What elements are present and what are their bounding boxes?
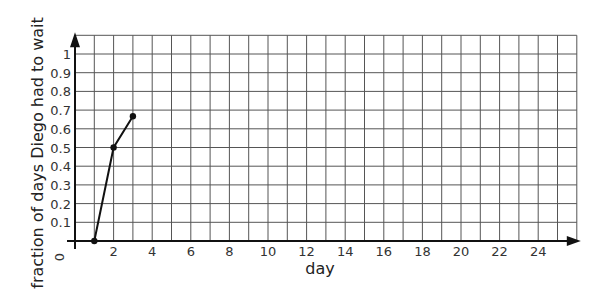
x-tick-label: 22 xyxy=(491,244,508,259)
x-tick-label: 12 xyxy=(298,244,315,259)
data-point xyxy=(91,238,97,244)
line-chart: 24681012141618202224 0.10.20.30.40.50.60… xyxy=(0,0,595,296)
y-tick-labels: 0.10.20.30.40.50.60.70.80.91 xyxy=(50,47,71,230)
y-tick-label: 0.4 xyxy=(50,159,71,174)
y-axis-label: fraction of days Diego had to wait xyxy=(28,17,47,289)
x-tick-label: 14 xyxy=(337,244,354,259)
origin-label: 0 xyxy=(52,253,67,261)
y-tick-label: 0.8 xyxy=(50,84,71,99)
y-tick-label: 0.7 xyxy=(50,103,71,118)
x-tick-label: 2 xyxy=(109,244,117,259)
x-tick-labels: 24681012141618202224 xyxy=(109,244,546,259)
y-tick-label: 0.2 xyxy=(50,197,71,212)
x-tick-label: 18 xyxy=(414,244,431,259)
y-tick-label: 0.5 xyxy=(50,141,71,156)
x-tick-label: 6 xyxy=(187,244,195,259)
x-axis-label: day xyxy=(305,259,334,278)
data-point xyxy=(110,144,116,150)
y-axis-arrow-icon xyxy=(70,32,80,47)
chart-grid xyxy=(75,35,577,241)
y-tick-label: 0.3 xyxy=(50,178,71,193)
chart-axes xyxy=(67,32,581,249)
x-tick-label: 24 xyxy=(530,244,547,259)
x-tick-label: 10 xyxy=(260,244,277,259)
y-tick-label: 0.1 xyxy=(50,215,71,230)
y-tick-label: 1 xyxy=(63,47,71,62)
y-tick-label: 0.9 xyxy=(50,66,71,81)
x-tick-label: 20 xyxy=(453,244,470,259)
x-axis-arrow-icon xyxy=(567,236,581,246)
y-tick-label: 0.6 xyxy=(50,122,71,137)
x-tick-label: 16 xyxy=(376,244,393,259)
x-tick-label: 8 xyxy=(225,244,233,259)
x-tick-label: 4 xyxy=(148,244,156,259)
data-point xyxy=(130,113,136,119)
